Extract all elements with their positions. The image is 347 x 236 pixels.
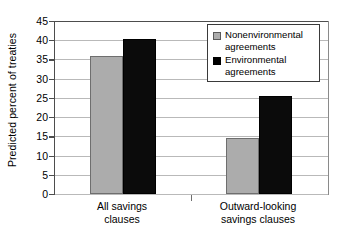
bar	[259, 96, 292, 194]
legend-label-line2: agreements	[225, 66, 276, 77]
y-axis-tick-label: 45	[8, 15, 48, 27]
y-axis-tick-label: 30	[8, 73, 48, 85]
gray-swatch-icon	[213, 32, 221, 40]
x-axis-category-label-line: Outward-looking	[193, 200, 323, 213]
black-swatch-icon	[213, 57, 221, 65]
legend-item-label: Nonenvironmental agreements	[225, 29, 303, 52]
bar-chart-figure: Predicted percent of treaties 4540353025…	[0, 0, 347, 236]
y-axis-tick-label: 35	[8, 53, 48, 65]
y-axis-tick-label: 10	[8, 150, 48, 162]
y-axis-tick-labels: 454035302520151050	[0, 21, 48, 194]
x-axis-category-label: All savingsclauses	[57, 200, 187, 226]
legend: Nonenvironmental agreements Environmenta…	[207, 24, 320, 82]
x-axis-category-label-line: savings clauses	[193, 213, 323, 226]
legend-item-label: Environmental agreements	[225, 54, 286, 77]
gridline	[55, 21, 329, 22]
x-axis-separator-tick	[191, 195, 192, 201]
bar	[123, 39, 156, 194]
y-axis-tick-label: 25	[8, 92, 48, 104]
legend-item-environmental: Environmental agreements	[213, 54, 314, 77]
y-axis-tick-label: 15	[8, 130, 48, 142]
bar	[90, 56, 123, 194]
legend-label-line1: Environmental	[225, 54, 286, 65]
legend-label-line1: Nonenvironmental	[225, 29, 303, 40]
x-axis-category-label-line: All savings	[57, 200, 187, 213]
y-axis-tick-label: 40	[8, 34, 48, 46]
y-axis-tick-label: 20	[8, 111, 48, 123]
y-axis-tick-label: 0	[8, 188, 48, 200]
plot-right-border	[328, 21, 329, 195]
legend-label-line2: agreements	[225, 41, 276, 52]
x-axis-category-label-line: clauses	[57, 213, 187, 226]
y-axis-tick-label: 5	[8, 169, 48, 181]
x-axis-category-label: Outward-lookingsavings clauses	[193, 200, 323, 226]
bar	[226, 138, 259, 194]
legend-item-nonenvironmental: Nonenvironmental agreements	[213, 29, 314, 52]
